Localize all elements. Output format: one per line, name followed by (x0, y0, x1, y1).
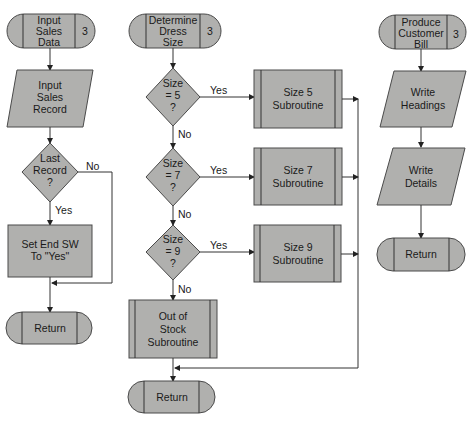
svg-text:Yes: Yes (210, 239, 227, 251)
svg-text:Input: Input (38, 79, 61, 91)
svg-text:?: ? (47, 176, 53, 188)
svg-text:Return: Return (405, 248, 437, 260)
svg-text:?: ? (170, 101, 176, 113)
flowchart-input-sales-data: Input Sales Data 3 Input Sales Record La… (6, 14, 112, 344)
svg-text:Size 9: Size 9 (283, 241, 312, 253)
svg-text:No: No (178, 128, 192, 140)
svg-text:Write: Write (411, 86, 435, 98)
svg-text:Out of: Out of (159, 310, 188, 322)
yes-label: Yes (55, 204, 72, 216)
return-terminal: Return (6, 312, 92, 344)
svg-text:= 7: = 7 (166, 169, 181, 181)
svg-text:Record: Record (33, 164, 67, 176)
section-number: 3 (82, 25, 88, 37)
svg-text:Details: Details (405, 177, 437, 189)
svg-text:No: No (178, 208, 192, 220)
size-9-decision: Size = 9 ? (146, 225, 200, 280)
svg-text:= 5: = 5 (166, 89, 181, 101)
section-number: 3 (453, 28, 459, 40)
svg-text:Last: Last (40, 152, 60, 164)
set-end-switch-process: Set End SW To "Yes" (8, 225, 92, 277)
out-of-stock-subroutine: Out of Stock Subroutine (129, 300, 217, 358)
svg-text:Size: Size (163, 77, 184, 89)
svg-text:Return: Return (156, 391, 188, 403)
svg-text:Write: Write (409, 164, 433, 176)
svg-text:Subroutine: Subroutine (273, 99, 324, 111)
svg-text:Yes: Yes (210, 164, 227, 176)
size-9-subroutine: Size 9 Subroutine (254, 225, 341, 282)
size-7-subroutine: Size 7 Subroutine (254, 148, 342, 205)
svg-text:Subroutine: Subroutine (148, 336, 199, 348)
flowchart-canvas: Input Sales Data 3 Input Sales Record La… (0, 0, 471, 425)
flowchart-produce-customer-bill: Produce Customer Bill 3 Write Headings W… (377, 15, 466, 271)
entry-terminal: Input Sales Data 3 (7, 14, 95, 48)
svg-text:Bill: Bill (414, 38, 428, 50)
svg-text:Data: Data (38, 36, 60, 48)
svg-text:Yes: Yes (210, 84, 227, 96)
svg-text:Return: Return (34, 322, 66, 334)
svg-text:Headings: Headings (401, 99, 445, 111)
write-details-output: Write Details (377, 148, 465, 205)
entry-terminal: Determine Dress Size 3 (129, 14, 221, 48)
svg-text:No: No (178, 283, 192, 295)
size-5-decision: Size = 5 ? (146, 68, 200, 126)
last-record-decision: Last Record ? (22, 143, 78, 202)
svg-text:Record: Record (33, 103, 67, 115)
input-record-shape: Input Sales Record (7, 70, 93, 127)
svg-text:?: ? (170, 257, 176, 269)
svg-text:= 9: = 9 (166, 245, 181, 257)
svg-text:Size 5: Size 5 (283, 86, 312, 98)
svg-text:Size 7: Size 7 (283, 164, 312, 176)
svg-text:Size: Size (163, 36, 184, 48)
svg-text:Size: Size (163, 157, 184, 169)
svg-text:Stock: Stock (160, 323, 187, 335)
return-terminal: Return (377, 238, 465, 271)
svg-text:To "Yes": To "Yes" (31, 250, 70, 262)
svg-text:Sales: Sales (37, 91, 63, 103)
write-headings-output: Write Headings (380, 71, 466, 127)
section-number: 3 (207, 25, 213, 37)
svg-text:?: ? (170, 181, 176, 193)
svg-text:Subroutine: Subroutine (273, 177, 324, 189)
svg-text:Set End SW: Set End SW (21, 238, 78, 250)
return-terminal: Return (128, 381, 215, 413)
svg-text:Subroutine: Subroutine (273, 254, 324, 266)
svg-text:Size: Size (163, 233, 184, 245)
flowchart-determine-dress-size: Determine Dress Size 3 Size = 5 ? Yes Si… (128, 14, 358, 413)
size-5-subroutine: Size 5 Subroutine (254, 70, 342, 128)
no-label: No (86, 160, 100, 172)
size-7-decision: Size = 7 ? (146, 148, 200, 206)
entry-terminal: Produce Customer Bill 3 (379, 15, 466, 50)
